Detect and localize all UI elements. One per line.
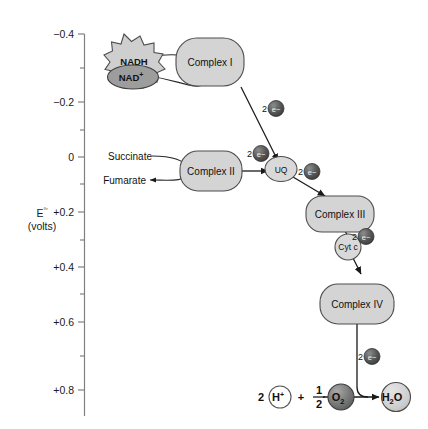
oxygen-subscript: 2 xyxy=(340,397,344,406)
nad-superscript: + xyxy=(139,71,143,78)
complex-i-label: Complex I xyxy=(187,57,232,68)
electron-badge-complex2-uq: 2 e− xyxy=(247,146,269,162)
axis-title-symbol: E xyxy=(37,207,44,219)
axis-title: E°′ (volts) xyxy=(28,207,57,232)
svg-text:E°′: E°′ xyxy=(37,207,49,219)
complex-iii-node: Complex III xyxy=(306,196,374,232)
uq-node: UQ xyxy=(265,157,297,182)
axis-tick-label: +0.2 xyxy=(53,206,74,218)
axis-tick-label: +0.4 xyxy=(53,261,74,273)
electron-count: 2 xyxy=(262,104,267,114)
electron-count: 2 xyxy=(352,232,357,242)
complex-ii-label: Complex II xyxy=(187,166,235,177)
axis-tick-label: 0 xyxy=(68,151,74,163)
electron-badge-uq-complex3: 2 e− xyxy=(298,164,320,180)
y-axis: −0.4 −0.2 0 +0.2 +0.4 +0.6 +0.8 E°′ (vol… xyxy=(28,28,85,417)
fraction-numerator: 1 xyxy=(316,384,322,396)
axis-title-units: (volts) xyxy=(28,220,57,232)
fraction-denominator: 2 xyxy=(316,398,322,410)
complex-iv-node: Complex IV xyxy=(320,284,394,324)
uq-label: UQ xyxy=(275,165,288,175)
axis-tick-label: −0.2 xyxy=(53,96,74,108)
electron-count: 2 xyxy=(358,352,363,362)
electron-glyph: e− xyxy=(368,353,377,362)
electron-badge-complex4-water: 2 e− xyxy=(358,349,380,365)
axis-tick-label: +0.8 xyxy=(53,384,74,396)
complex-iv-label: Complex IV xyxy=(331,299,383,310)
proton-label: H xyxy=(272,391,280,403)
cytc-node: Cyt c xyxy=(335,234,361,260)
axis-tick-label: −0.4 xyxy=(53,28,74,40)
uq-to-complex3-arrow xyxy=(293,177,325,196)
water-label: H xyxy=(382,391,390,403)
axis-tick-label: +0.6 xyxy=(53,316,74,328)
plus-sign: + xyxy=(298,391,304,403)
electron-badge-complex1-uq: 2 e− xyxy=(262,101,284,117)
fumarate-label: Fumarate xyxy=(103,175,146,186)
cytc-label: Cyt c xyxy=(338,242,358,252)
nad-label: NAD xyxy=(119,72,140,83)
succinate-label: Succinate xyxy=(108,151,152,162)
electron-glyph: e− xyxy=(308,168,317,177)
complex-ii-node: Complex II xyxy=(180,151,242,191)
electron-count: 2 xyxy=(247,149,252,159)
complex-iii-label: Complex III xyxy=(315,209,366,220)
electron-glyph: e− xyxy=(257,150,266,159)
electron-glyph: e− xyxy=(272,105,281,114)
electron-glyph: e− xyxy=(362,233,371,242)
axis-title-superscript: °′ xyxy=(44,207,49,214)
electron-count: 2 xyxy=(298,167,303,177)
nad-node: NAD+ xyxy=(108,65,159,89)
water-formation-equation: 2 H+ + 1 2 O2 H2O xyxy=(258,383,411,412)
proton-coefficient: 2 xyxy=(258,391,264,403)
one-half-fraction: 1 2 xyxy=(313,384,325,410)
water-label-tail: O xyxy=(394,391,403,403)
complex-i-node: Complex I xyxy=(176,38,244,86)
etc-redox-diagram: −0.4 −0.2 0 +0.2 +0.4 +0.6 +0.8 E°′ (vol… xyxy=(0,0,428,429)
proton-charge: + xyxy=(280,391,284,398)
